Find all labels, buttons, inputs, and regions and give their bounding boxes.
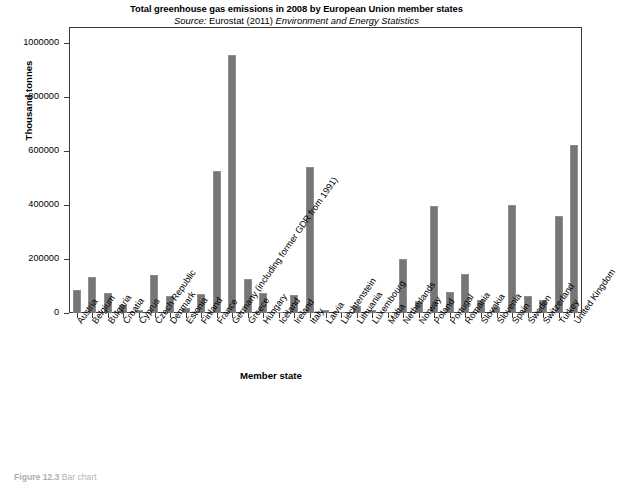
title-block: Total greenhouse gas emissions in 2008 b… xyxy=(0,3,593,27)
bar[interactable] xyxy=(306,167,314,313)
figure-caption-number: Figure 12.3 xyxy=(14,472,59,482)
bar-slot xyxy=(333,27,349,313)
bar-slot xyxy=(411,27,427,313)
bar-slot xyxy=(240,27,256,313)
y-tick-label: 0 xyxy=(1,307,59,317)
x-axis-title: Member state xyxy=(240,370,302,381)
figure-caption: Figure 12.3 Bar chart xyxy=(14,472,97,482)
bar-slot xyxy=(489,27,505,313)
chart-title: Total greenhouse gas emissions in 2008 b… xyxy=(0,3,593,15)
bar-slot xyxy=(349,27,365,313)
bar-slot xyxy=(427,27,443,313)
bar-slot xyxy=(442,27,458,313)
bar[interactable] xyxy=(73,290,81,313)
bar-slot xyxy=(209,27,225,313)
bar-slot xyxy=(162,27,178,313)
bars-group xyxy=(69,27,582,313)
figure-caption-text: Bar chart xyxy=(62,472,97,482)
bar-slot xyxy=(380,27,396,313)
source-prefix: Source: xyxy=(174,15,206,26)
bar-slot xyxy=(551,27,567,313)
bar-slot xyxy=(520,27,536,313)
y-tick-label: 200000 xyxy=(1,253,59,263)
source-publication: Environment and Energy Statistics xyxy=(276,15,419,26)
bar-slot xyxy=(395,27,411,313)
bar-slot xyxy=(131,27,147,313)
bar-slot xyxy=(473,27,489,313)
y-tick-mark xyxy=(64,313,69,314)
bar-slot xyxy=(69,27,85,313)
y-tick-label: 1000000 xyxy=(1,37,59,47)
bar-slot xyxy=(116,27,132,313)
bar-slot xyxy=(147,27,163,313)
bar-slot xyxy=(287,27,303,313)
bar[interactable] xyxy=(228,55,236,313)
bar-slot xyxy=(302,27,318,313)
bar-slot xyxy=(535,27,551,313)
bar[interactable] xyxy=(213,171,221,313)
bar-slot xyxy=(193,27,209,313)
y-tick-label: 600000 xyxy=(1,145,59,155)
bar-slot xyxy=(85,27,101,313)
bar-slot xyxy=(318,27,334,313)
bar-slot xyxy=(224,27,240,313)
y-tick-label: 800000 xyxy=(1,91,59,101)
bar-slot xyxy=(566,27,582,313)
bar-slot xyxy=(364,27,380,313)
source-org: Eurostat (2011) xyxy=(209,15,273,26)
bar-slot xyxy=(100,27,116,313)
chart-subtitle: Source: Eurostat (2011) Environment and … xyxy=(0,15,593,27)
bar-slot xyxy=(458,27,474,313)
bar-slot xyxy=(504,27,520,313)
y-tick-label: 400000 xyxy=(1,199,59,209)
